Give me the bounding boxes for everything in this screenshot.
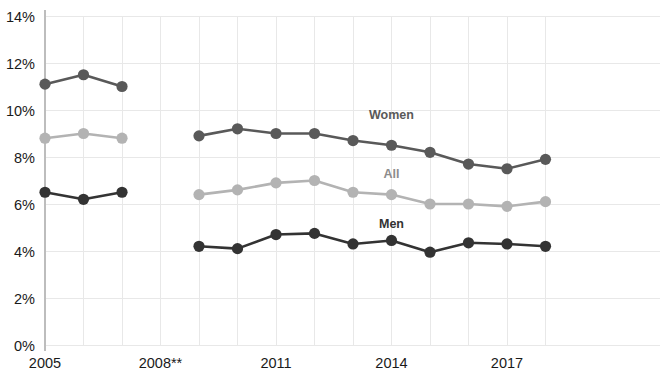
y-axis-tick-labels: 0%2%4%6%8%10%12%14%: [6, 9, 35, 354]
data-point-women: [501, 163, 512, 174]
data-point-all: [270, 177, 281, 188]
data-point-all: [232, 184, 243, 195]
chart-canvas: 0%2%4%6%8%10%12%14% 20052008**2011201420…: [0, 0, 662, 385]
data-point-women: [193, 130, 204, 141]
x-axis-tick-label: 2017: [491, 355, 523, 371]
data-point-men: [39, 187, 50, 198]
data-point-all: [463, 198, 474, 209]
data-point-women: [78, 69, 89, 80]
data-point-women: [347, 135, 358, 146]
y-axis-tick-label: 12%: [6, 56, 35, 72]
y-axis-tick-label: 2%: [14, 291, 35, 307]
series-label-men: Men: [379, 217, 404, 231]
data-point-all: [116, 133, 127, 144]
x-axis-tick-labels: 20052008**201120142017: [29, 355, 523, 371]
data-point-women: [540, 154, 551, 165]
data-point-men: [424, 247, 435, 258]
data-point-all: [193, 189, 204, 200]
y-axis-tick-label: 0%: [14, 338, 35, 354]
data-point-all: [540, 196, 551, 207]
data-point-men: [501, 238, 512, 249]
data-point-women: [270, 128, 281, 139]
data-point-all: [347, 187, 358, 198]
data-point-men: [540, 241, 551, 252]
series-line-women: [199, 129, 546, 169]
data-point-all: [78, 128, 89, 139]
x-axis-tick-label: 2005: [29, 355, 61, 371]
x-axis-tick-label: 2011: [260, 355, 291, 371]
y-axis-tick-label: 4%: [14, 244, 35, 260]
data-point-women: [386, 140, 397, 151]
x-axis-tick-label: 2014: [375, 355, 407, 371]
data-point-men: [232, 243, 243, 254]
x-axis-tick-label: 2008**: [139, 355, 183, 371]
y-axis-tick-label: 14%: [6, 9, 35, 25]
line-chart: 0%2%4%6%8%10%12%14% 20052008**2011201420…: [0, 0, 662, 385]
data-point-men: [309, 228, 320, 239]
data-point-all: [501, 201, 512, 212]
y-axis-tick-label: 8%: [14, 150, 35, 166]
data-point-men: [386, 235, 397, 246]
series-label-all: All: [384, 167, 400, 181]
data-point-all: [386, 189, 397, 200]
data-point-all: [39, 133, 50, 144]
series-line-all: [199, 181, 546, 207]
data-point-men: [116, 187, 127, 198]
data-point-women: [232, 123, 243, 134]
data-point-men: [463, 237, 474, 248]
y-axis-tick-label: 6%: [14, 197, 35, 213]
series-label-women: Women: [369, 108, 414, 122]
series-line-men: [199, 233, 546, 252]
data-point-women: [424, 147, 435, 158]
data-point-men: [347, 238, 358, 249]
data-point-all: [424, 198, 435, 209]
data-point-men: [270, 229, 281, 240]
data-point-women: [116, 81, 127, 92]
data-point-men: [193, 241, 204, 252]
data-point-women: [309, 128, 320, 139]
data-point-women: [39, 79, 50, 90]
data-point-men: [78, 194, 89, 205]
data-point-women: [463, 158, 474, 169]
y-axis-tick-label: 10%: [6, 103, 35, 119]
data-point-all: [309, 175, 320, 186]
